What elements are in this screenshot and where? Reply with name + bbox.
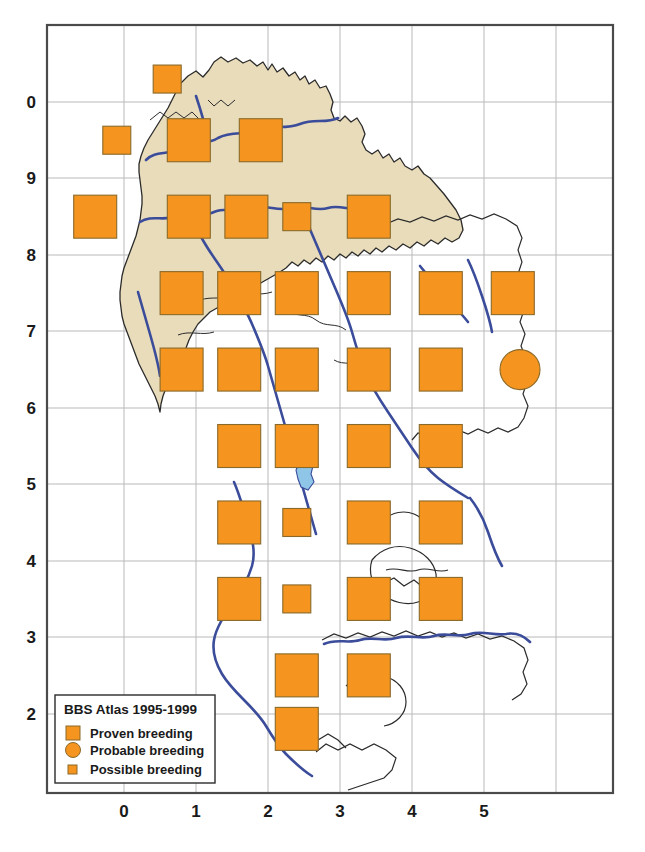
y-tick-label: 9 bbox=[27, 169, 36, 188]
breeding-symbol bbox=[218, 425, 261, 468]
y-axis-tick-labels: 098765432 bbox=[27, 93, 37, 724]
breeding-symbol bbox=[283, 203, 311, 231]
x-tick-label: 1 bbox=[191, 802, 200, 821]
y-tick-label: 7 bbox=[27, 322, 36, 341]
breeding-symbol bbox=[347, 654, 390, 697]
breeding-symbol bbox=[347, 501, 390, 544]
breeding-symbol bbox=[419, 577, 462, 620]
breeding-symbol bbox=[167, 119, 210, 162]
legend: BBS Atlas 1995-1999 Proven breeding Prob… bbox=[55, 695, 215, 783]
breeding-symbol bbox=[283, 508, 311, 536]
legend-label-possible-breeding: Possible breeding bbox=[90, 762, 202, 777]
breeding-symbol bbox=[218, 348, 261, 391]
x-tick-label: 2 bbox=[263, 802, 272, 821]
breeding-symbol bbox=[419, 425, 462, 468]
breeding-symbol bbox=[491, 272, 534, 315]
y-tick-label: 3 bbox=[27, 628, 36, 647]
breeding-symbol bbox=[347, 195, 390, 238]
legend-title: BBS Atlas 1995-1999 bbox=[64, 702, 197, 717]
breeding-symbol bbox=[347, 348, 390, 391]
breeding-symbol bbox=[153, 65, 181, 93]
legend-swatch-possible-breeding bbox=[68, 765, 77, 774]
legend-swatch-proven-breeding bbox=[66, 726, 80, 740]
breeding-symbol bbox=[419, 348, 462, 391]
breeding-symbol bbox=[103, 126, 131, 154]
breeding-symbol bbox=[160, 272, 203, 315]
legend-label-proven-breeding: Proven breeding bbox=[90, 726, 193, 741]
y-tick-label: 6 bbox=[27, 399, 36, 418]
breeding-symbol bbox=[218, 501, 261, 544]
y-tick-label: 0 bbox=[27, 93, 36, 112]
legend-swatch-probable-breeding bbox=[66, 743, 81, 758]
x-tick-label: 0 bbox=[119, 802, 128, 821]
y-tick-label: 4 bbox=[27, 552, 37, 571]
y-tick-label: 8 bbox=[27, 246, 36, 265]
x-tick-label: 5 bbox=[479, 802, 488, 821]
map-figure: 012345 098765432 BBS Atlas 1995-1999 Pro… bbox=[0, 0, 645, 852]
breeding-symbol bbox=[225, 195, 268, 238]
x-tick-label: 3 bbox=[335, 802, 344, 821]
map-canvas: 012345 098765432 BBS Atlas 1995-1999 Pro… bbox=[0, 0, 645, 852]
y-tick-label: 2 bbox=[27, 705, 36, 724]
breeding-symbol bbox=[275, 425, 318, 468]
breeding-symbol bbox=[275, 654, 318, 697]
breeding-symbol bbox=[419, 272, 462, 315]
breeding-symbol bbox=[218, 577, 261, 620]
breeding-symbol bbox=[167, 195, 210, 238]
breeding-symbol bbox=[275, 707, 318, 750]
breeding-symbol bbox=[347, 425, 390, 468]
legend-label-probable-breeding: Probable breeding bbox=[90, 743, 204, 758]
y-tick-label: 5 bbox=[27, 475, 36, 494]
breeding-symbol bbox=[160, 348, 203, 391]
breeding-symbol bbox=[283, 585, 311, 613]
breeding-symbol bbox=[347, 272, 390, 315]
breeding-symbol bbox=[419, 501, 462, 544]
breeding-symbol bbox=[500, 350, 540, 390]
breeding-symbol bbox=[218, 272, 261, 315]
breeding-symbol bbox=[239, 119, 282, 162]
x-tick-label: 4 bbox=[407, 802, 417, 821]
breeding-symbol bbox=[275, 348, 318, 391]
breeding-symbol bbox=[275, 272, 318, 315]
breeding-symbol bbox=[347, 577, 390, 620]
breeding-symbol bbox=[74, 195, 117, 238]
